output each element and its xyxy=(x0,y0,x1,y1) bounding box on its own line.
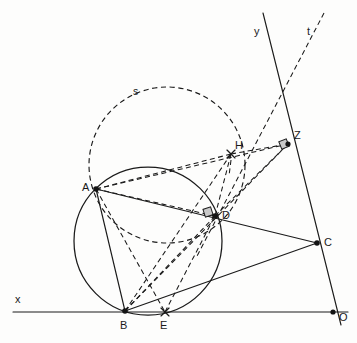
axis-label-y: y xyxy=(254,26,260,37)
point-label-E: E xyxy=(160,320,167,331)
point-label-O: O xyxy=(339,312,348,323)
segment-E-D xyxy=(165,216,215,312)
segment-A-E xyxy=(96,189,165,312)
point-label-D: D xyxy=(222,210,230,221)
segment-A-D xyxy=(96,189,215,216)
vertex-dot-C xyxy=(314,240,320,246)
geometry-canvas xyxy=(0,0,357,343)
point-label-C: C xyxy=(324,237,332,248)
point-label-B: B xyxy=(120,320,127,331)
point-label-H: H xyxy=(235,140,243,151)
vertex-dot-B xyxy=(122,308,128,314)
vertex-markers-group xyxy=(93,141,335,316)
segment-D-Z xyxy=(215,144,288,216)
point-label-Z: Z xyxy=(294,130,301,141)
vertex-dot-A xyxy=(93,186,99,192)
vertex-dot-D xyxy=(212,213,218,219)
segment-A-B xyxy=(96,189,125,311)
point-label-A: A xyxy=(82,182,89,193)
vertex-dot-Z xyxy=(285,141,290,146)
curve-label-s: s xyxy=(133,86,138,97)
axis-label-x: x xyxy=(15,294,21,305)
y-axis-line xyxy=(263,13,341,325)
vertex-dot-O xyxy=(330,309,335,314)
geometry-figure: A B C D E H Z O x y t s xyxy=(0,0,357,343)
tangent-line-t xyxy=(196,13,324,258)
circles-group xyxy=(74,87,245,315)
right-angle-marker-at-D xyxy=(203,207,213,217)
right-angle-marks-group xyxy=(203,139,289,217)
solid-segments-group xyxy=(96,189,317,311)
axis-label-t: t xyxy=(307,26,310,37)
